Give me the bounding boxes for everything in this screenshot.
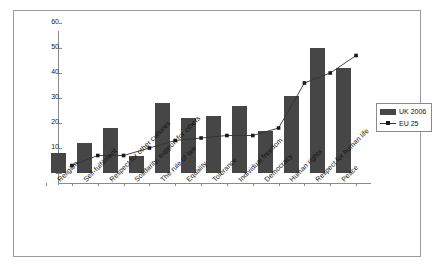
y-tick-mark (59, 123, 62, 124)
line-marker-icon (380, 120, 396, 127)
y-tick-mark (59, 148, 62, 149)
legend-item-eu-25: EU 25 (380, 118, 418, 129)
eu-25-marker (199, 136, 203, 140)
y-tick-label: 10 (51, 143, 59, 150)
x-axis-line (58, 183, 371, 184)
y-tick-mark (59, 48, 62, 49)
y-tick-mark (59, 73, 62, 74)
x-tick-mark (149, 183, 150, 186)
eu-25-marker (277, 126, 281, 130)
bar (206, 116, 221, 174)
x-tick-mark (201, 183, 202, 186)
x-tick-mark (72, 183, 73, 186)
y-tick-label: 40 (51, 68, 59, 75)
chart-legend: UK 2006 EU 25 (376, 103, 432, 132)
eu-25-marker (122, 154, 126, 158)
chart-figure: 0102030405060 ReligionSelf-fulfilmentRes… (0, 0, 436, 277)
x-tick-mark (175, 183, 176, 186)
x-tick-mark (279, 183, 280, 186)
legend-item-uk-2006: UK 2006 (380, 106, 426, 117)
eu-25-marker (303, 81, 307, 85)
chart-frame: 0102030405060 ReligionSelf-fulfilmentRes… (13, 10, 421, 257)
y-tick-mark (59, 98, 62, 99)
y-tick-label: 30 (51, 93, 59, 100)
x-tick-mark (98, 183, 99, 186)
eu-25-marker (251, 134, 255, 138)
x-tick-mark (356, 183, 357, 186)
y-tick-label: 50 (51, 43, 59, 50)
x-tick-mark (124, 183, 125, 186)
x-tick-mark (227, 183, 228, 186)
legend-label-uk-2006: UK 2006 (399, 108, 426, 115)
x-tick-mark (46, 183, 47, 186)
legend-label-eu-25: EU 25 (399, 120, 418, 127)
y-tick-mark (59, 23, 62, 24)
y-tick-label: 20 (51, 118, 59, 125)
y-tick-label: 60 (51, 18, 59, 25)
eu-25-marker (96, 154, 100, 158)
x-tick-mark (253, 183, 254, 186)
eu-25-marker (328, 71, 332, 75)
eu-25-marker (354, 54, 358, 58)
bar-swatch-icon (380, 109, 396, 115)
x-tick-mark (304, 183, 305, 186)
eu-25-marker (225, 134, 229, 138)
x-tick-mark (330, 183, 331, 186)
